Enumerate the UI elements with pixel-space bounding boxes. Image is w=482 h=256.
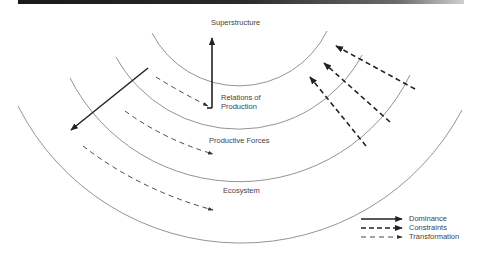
transformation-arrow-ecosystem: [83, 146, 213, 210]
legend-label-dominance: Dominance: [409, 214, 447, 223]
label-relations-of-production: Relations of Production: [221, 93, 261, 111]
arc-ecosystem-boundary: [18, 106, 462, 243]
transformation-arrow-relations: [156, 77, 208, 106]
label-relations-line1: Relations of: [221, 93, 261, 102]
transformation-arrow-productive-forces: [125, 111, 213, 154]
label-superstructure: Superstructure: [211, 18, 260, 27]
constraints-arrow-1: [336, 46, 415, 89]
arc-superstructure-boundary: [152, 31, 327, 86]
label-relations-line2: Production: [221, 102, 261, 111]
label-ecosystem: Ecosystem: [223, 186, 260, 195]
legend: [361, 219, 402, 237]
legend-label-constraints: Constraints: [409, 223, 447, 232]
label-productive-forces: Productive Forces: [209, 136, 269, 145]
arc-productive-forces-boundary: [70, 75, 410, 182]
constraints-arrow-2: [324, 63, 390, 122]
dominance-arrow-to-superstructure: [207, 38, 212, 108]
legend-label-transformation: Transformation: [409, 232, 459, 241]
